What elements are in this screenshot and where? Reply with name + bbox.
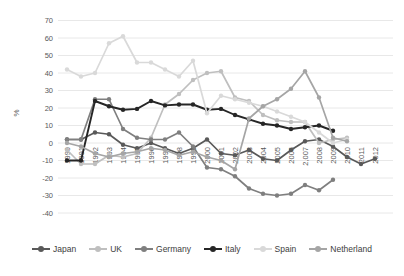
data-point-marker	[373, 157, 377, 161]
data-point-marker	[275, 109, 279, 113]
data-point-marker	[317, 95, 321, 99]
legend-item-spain: Spain	[254, 244, 297, 254]
data-point-marker	[275, 118, 279, 122]
x-tick-label: 2004	[259, 147, 268, 164]
legend-label: UK	[110, 244, 122, 254]
data-point-marker	[191, 78, 195, 82]
data-point-marker	[177, 102, 181, 106]
legend-label: Japan	[53, 244, 76, 254]
data-point-marker	[233, 97, 237, 101]
data-point-marker	[135, 150, 139, 154]
data-point-marker	[233, 174, 237, 178]
legend-line-marker-icon	[204, 246, 222, 252]
data-point-marker	[65, 141, 69, 145]
x-tick-label: 2,007	[301, 147, 310, 166]
data-point-marker	[149, 60, 153, 64]
legend-line-marker-icon	[135, 246, 153, 252]
data-point-marker	[149, 146, 153, 150]
data-point-marker	[233, 167, 237, 171]
data-point-marker	[93, 162, 97, 166]
data-point-marker	[247, 116, 251, 120]
data-point-marker	[205, 137, 209, 141]
data-point-marker	[289, 148, 293, 152]
data-point-marker	[135, 136, 139, 140]
legend-item-germany: Germany	[135, 244, 191, 254]
data-point-marker	[233, 113, 237, 117]
data-point-marker	[345, 155, 349, 159]
legend-item-japan: Japan	[32, 244, 76, 254]
data-point-marker	[331, 178, 335, 182]
y-tick-label: 20	[45, 104, 53, 113]
legend-label: Germany	[156, 244, 191, 254]
y-tick-label: 70	[45, 16, 53, 25]
y-tick-label: -20	[42, 174, 53, 183]
data-point-marker	[163, 137, 167, 141]
data-point-marker	[177, 74, 181, 78]
data-point-marker	[205, 71, 209, 75]
legend-line-marker-icon	[32, 246, 50, 252]
legend-item-italy: Italy	[204, 244, 241, 254]
data-point-marker	[163, 148, 167, 152]
data-point-marker	[289, 192, 293, 196]
data-point-marker	[289, 115, 293, 119]
data-point-marker	[107, 155, 111, 159]
data-point-marker	[65, 148, 69, 152]
x-tick-label: 2012	[371, 147, 380, 164]
data-point-marker	[247, 148, 251, 152]
data-point-marker	[219, 107, 223, 111]
data-point-marker	[79, 137, 83, 141]
x-tick-label: 2011	[357, 147, 366, 163]
data-point-marker	[219, 94, 223, 98]
y-tick-label: 10	[45, 121, 53, 130]
data-point-marker	[317, 188, 321, 192]
data-point-marker	[205, 155, 209, 159]
legend-line-marker-icon	[89, 246, 107, 252]
data-point-marker	[219, 158, 223, 162]
data-point-marker	[303, 183, 307, 187]
data-point-marker	[247, 186, 251, 190]
data-point-marker	[359, 162, 363, 166]
data-point-marker	[303, 125, 307, 129]
data-point-marker	[317, 141, 321, 145]
data-point-marker	[219, 151, 223, 155]
data-point-marker	[93, 99, 97, 103]
gridlines	[58, 21, 393, 214]
data-point-marker	[303, 69, 307, 73]
legend-line-marker-icon	[309, 246, 327, 252]
y-tick-label: -40	[42, 209, 53, 218]
y-tick-label: 60	[45, 34, 53, 43]
data-point-marker	[163, 103, 167, 107]
data-point-marker	[289, 87, 293, 91]
legend-line-marker-icon	[254, 246, 272, 252]
data-point-marker	[177, 153, 181, 157]
data-point-marker	[149, 137, 153, 141]
data-point-marker	[219, 167, 223, 171]
data-point-marker	[317, 130, 321, 134]
chart-figure: -40-30-20-10010203040506070%199019911992…	[0, 0, 404, 276]
data-point-marker	[107, 104, 111, 108]
data-point-marker	[331, 141, 335, 145]
data-point-marker	[191, 144, 195, 148]
y-tick-label: 50	[45, 51, 53, 60]
data-point-marker	[303, 139, 307, 143]
data-point-marker	[261, 192, 265, 196]
data-point-marker	[289, 127, 293, 131]
data-point-marker	[275, 123, 279, 127]
data-point-marker	[261, 104, 265, 108]
data-point-marker	[121, 108, 125, 112]
data-point-marker	[205, 111, 209, 115]
data-point-marker	[191, 59, 195, 63]
data-point-marker	[261, 157, 265, 161]
data-point-marker	[79, 74, 83, 78]
data-point-marker	[93, 130, 97, 134]
line-chart-plot-area: -40-30-20-10010203040506070%199019911992…	[0, 0, 404, 244]
data-point-marker	[135, 107, 139, 111]
data-point-marker	[65, 158, 69, 162]
data-point-marker	[191, 150, 195, 154]
data-point-marker	[121, 34, 125, 38]
legend-item-uk: UK	[89, 244, 122, 254]
legend-label: Spain	[275, 244, 297, 254]
data-point-marker	[121, 143, 125, 147]
x-tick-label: 2008	[315, 147, 324, 164]
data-point-marker	[191, 102, 195, 106]
